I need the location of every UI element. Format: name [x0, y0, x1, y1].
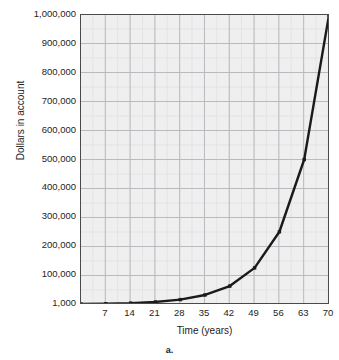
series-path — [81, 15, 329, 304]
data-series-line — [81, 15, 329, 304]
data-point-marker — [129, 301, 132, 304]
y-tick-label: 1,000 — [4, 297, 76, 308]
data-point-marker — [228, 284, 231, 287]
y-axis-title: Dollars in account — [15, 56, 26, 186]
y-tick-label: 200,000 — [4, 239, 76, 250]
figure-caption: a. — [0, 345, 339, 355]
data-point-marker — [81, 302, 83, 304]
plot-area — [80, 14, 329, 304]
y-tick-label: 100,000 — [4, 268, 76, 279]
data-point-marker — [253, 266, 256, 269]
x-axis-title: Time (years) — [80, 325, 329, 336]
data-point-marker — [179, 298, 182, 301]
data-point-marker — [278, 230, 281, 233]
data-point-marker — [303, 158, 306, 161]
clipped-title-remnant — [0, 0, 339, 6]
data-point-marker — [327, 15, 329, 17]
data-point-marker — [104, 302, 107, 304]
data-point-marker — [154, 300, 157, 303]
y-tick-label: 300,000 — [4, 210, 76, 221]
y-tick-label: 900,000 — [4, 37, 76, 48]
data-point-marker — [203, 293, 206, 296]
x-tick-label: 70 — [313, 307, 339, 318]
figure-container: 1,000,000900,000800,000700,000600,000500… — [0, 0, 339, 360]
y-tick-label: 1,000,000 — [4, 8, 76, 19]
